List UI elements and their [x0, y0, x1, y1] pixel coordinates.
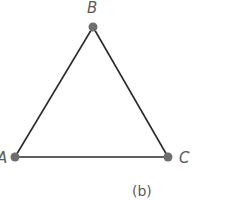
edge-ab	[15, 27, 93, 157]
edge-bc	[93, 27, 168, 157]
vertex-label-a: A	[0, 149, 7, 167]
triangle-diagram: A B C (b)	[0, 0, 226, 200]
vertex-a	[11, 153, 20, 162]
vertex-c	[164, 153, 173, 162]
figure-caption: (b)	[132, 183, 152, 199]
vertex-b	[89, 23, 98, 32]
vertex-label-b: B	[87, 0, 97, 17]
vertex-label-c: C	[179, 149, 190, 167]
